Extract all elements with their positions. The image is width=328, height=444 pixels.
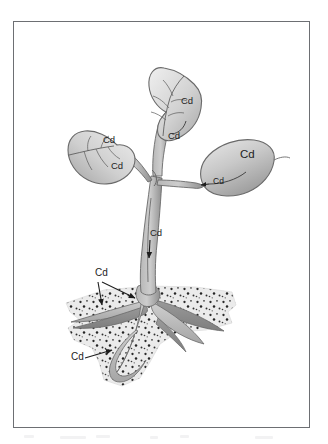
label-stem: Cd	[150, 227, 162, 238]
plant-diagram: Cd Cd Cd Cd Cd Cd Cd Cd Cd	[0, 0, 328, 444]
label-soil-lower: Cd	[71, 351, 84, 362]
figure-container: Cd Cd Cd Cd Cd Cd Cd Cd Cd	[0, 0, 328, 444]
page-scan-artifacts	[0, 431, 328, 444]
label-leaf-right-petiole: Cd	[213, 176, 224, 186]
main-stem	[117, 112, 204, 295]
label-leaf-left-lower: Cd	[111, 160, 123, 171]
left-leaf	[68, 131, 135, 184]
label-leaf-left-upper: Cd	[103, 134, 115, 145]
label-soil-upper: Cd	[95, 267, 108, 278]
label-leaf-top-upper: Cd	[181, 95, 193, 106]
label-leaf-right-large: Cd	[240, 148, 255, 160]
label-leaf-top-lower: Cd	[168, 130, 180, 141]
